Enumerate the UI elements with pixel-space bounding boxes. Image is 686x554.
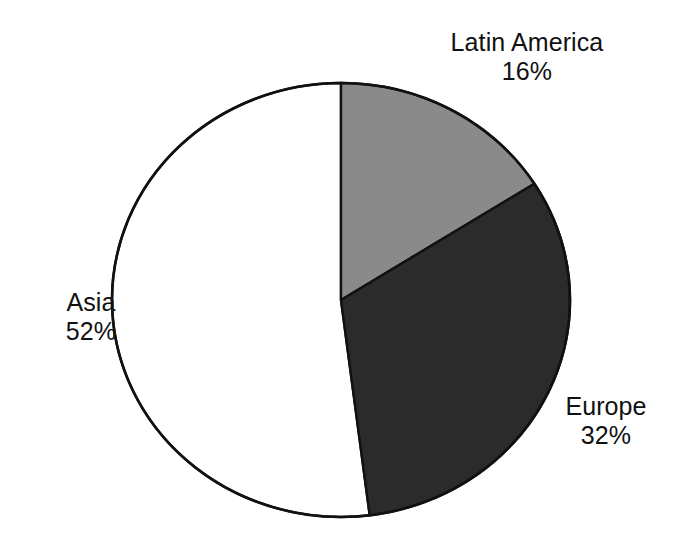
pie-slice-asia[interactable] — [112, 83, 370, 517]
pie-chart: Latin America 16% Asia 52% Europe 32% — [0, 0, 686, 554]
pie-label-europe-name: Europe — [540, 392, 672, 421]
pie-label-latin-america-value: 16% — [432, 57, 622, 86]
pie-label-europe-value: 32% — [540, 421, 672, 450]
pie-label-asia-value: 52% — [33, 317, 149, 346]
pie-label-asia: Asia 52% — [33, 288, 149, 346]
pie-label-europe: Europe 32% — [540, 392, 672, 450]
pie-label-latin-america-name: Latin America — [432, 28, 622, 57]
pie-label-latin-america: Latin America 16% — [432, 28, 622, 86]
pie-label-asia-name: Asia — [33, 288, 149, 317]
